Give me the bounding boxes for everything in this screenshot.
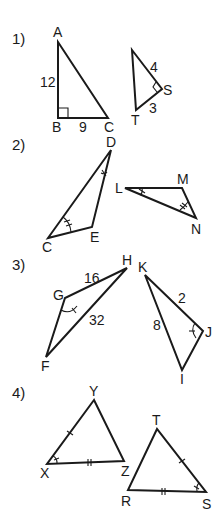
- side-label-st: 3: [149, 100, 157, 116]
- side-label-ab: 12: [40, 74, 56, 90]
- problem-number-3: 3): [12, 256, 25, 273]
- problem-3: 3) H G F 16 32 K J I 2 8: [12, 252, 212, 387]
- vertex-label-c2: C: [42, 239, 52, 255]
- problem-1: 1) A B C 12 9 S T 4 3: [12, 24, 172, 135]
- triangle-trs-shape: [128, 429, 206, 492]
- problem-number-1: 1): [12, 30, 25, 47]
- problem-number-2: 2): [12, 136, 25, 153]
- vertex-label-k: K: [138, 259, 148, 275]
- vertex-label-m: M: [177, 171, 189, 187]
- triangle-yxz-shape: [47, 400, 124, 464]
- vertex-label-h: H: [122, 252, 132, 268]
- triangle-abc-shape: [58, 42, 108, 118]
- vertex-label-l: L: [115, 180, 123, 196]
- angle-arc-s: [197, 483, 199, 491]
- triangle-lmn: L M N: [115, 171, 201, 237]
- vertex-label-j: J: [205, 324, 212, 340]
- side-label-gh: 16: [84, 270, 100, 286]
- vertex-label-t2: T: [152, 412, 161, 428]
- vertex-label-f: F: [41, 358, 50, 374]
- problem-4: 4) Y X Z T R S: [12, 383, 211, 512]
- vertex-label-i: I: [180, 371, 184, 387]
- vertex-label-t: T: [131, 112, 140, 128]
- triangle-trs: T R S: [121, 412, 211, 512]
- triangle-dce-shape: [48, 150, 111, 238]
- vertex-label-x: X: [40, 465, 50, 481]
- vertex-label-y: Y: [89, 383, 99, 399]
- side-label-kj: 2: [178, 290, 186, 306]
- triangle-lmn-shape: [125, 188, 196, 218]
- vertex-label-g: G: [53, 287, 64, 303]
- vertex-label-c: C: [104, 119, 114, 135]
- side-label-bc: 9: [79, 119, 87, 135]
- right-angle-mark-b: [58, 108, 68, 118]
- side-label-ki: 8: [153, 317, 161, 333]
- problem-2: 2) D C E L M N: [12, 134, 201, 255]
- triangle-yxz: Y X Z: [40, 383, 130, 481]
- triangle-hgf: H G F 16 32: [41, 252, 132, 374]
- problem-number-4: 4): [12, 384, 25, 401]
- vertex-label-a: A: [53, 24, 63, 40]
- similar-triangles-worksheet: 1) A B C 12 9 S T 4 3 2): [0, 0, 224, 527]
- vertex-label-z: Z: [121, 463, 130, 479]
- right-angle-mark-s: [153, 82, 157, 92]
- vertex-label-e: E: [90, 229, 99, 245]
- vertex-label-d: D: [106, 134, 116, 150]
- side-label-fh: 32: [89, 312, 105, 328]
- triangle-kji: K J I 2 8: [138, 259, 212, 387]
- vertex-label-n: N: [191, 221, 201, 237]
- vertex-label-r2: R: [121, 493, 131, 509]
- vertex-label-s: S: [163, 82, 172, 98]
- side-label-rs: 4: [150, 59, 158, 75]
- vertex-label-s2: S: [202, 496, 211, 512]
- triangle-dce: D C E: [42, 134, 116, 255]
- vertex-label-b: B: [52, 119, 61, 135]
- triangle-abc: A B C 12 9: [40, 24, 114, 135]
- triangle-rst: S T 4 3: [131, 50, 172, 128]
